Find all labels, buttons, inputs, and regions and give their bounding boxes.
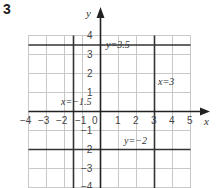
svg-text:−2: −2	[81, 144, 93, 155]
svg-text:4: 4	[169, 115, 175, 126]
svg-text:−4: −4	[20, 115, 32, 126]
y-axis-label: y	[85, 7, 91, 19]
coordinate-grid: x y −4 −3 −2 −1 0 1 2 3 4 5 4 3 2 1 −1 −…	[0, 0, 220, 188]
svg-text:3: 3	[87, 49, 93, 60]
svg-text:3: 3	[151, 115, 157, 126]
svg-text:2: 2	[133, 115, 139, 126]
svg-text:−3: −3	[81, 163, 93, 174]
svg-text:4: 4	[87, 30, 93, 41]
x-tick-labels: −4 −3 −2 −1 0 1 2 3 4 5	[20, 115, 193, 126]
y-axis-arrow-icon	[97, 7, 105, 18]
svg-text:−4: −4	[81, 181, 93, 188]
svg-text:−2: −2	[56, 115, 68, 126]
label-x-3: x=3	[157, 76, 174, 87]
svg-text:−1: −1	[81, 125, 93, 136]
label-y-neg-2: y=−2	[123, 135, 147, 146]
label-y-3-5: y=3.5	[105, 39, 130, 50]
x-axis-label: x	[203, 115, 209, 127]
svg-text:1: 1	[115, 115, 121, 126]
svg-text:5: 5	[187, 115, 193, 126]
svg-text:−3: −3	[38, 115, 50, 126]
svg-text:0: 0	[92, 115, 98, 126]
label-x-neg-1-5: x=−1.5	[60, 96, 91, 107]
svg-text:2: 2	[87, 68, 93, 79]
